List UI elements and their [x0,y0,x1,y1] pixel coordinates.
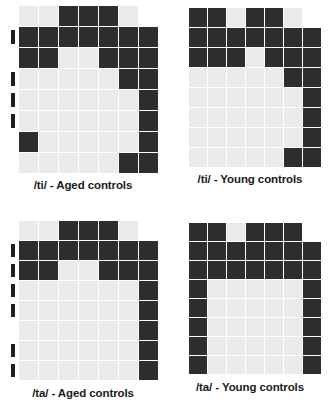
heatmap-cell [79,341,98,360]
heatmap-cell [139,341,158,360]
heatmap-cell [189,242,207,260]
heatmap-cell [227,356,245,374]
row-marker [9,111,18,131]
heatmap-cell [59,111,78,131]
heatmap-cell [19,153,38,173]
row-marker [179,128,188,147]
row-marker-bar-icon [11,93,15,107]
heatmap-cell [227,128,245,147]
heatmap-cell [99,341,118,360]
heatmap-cell [119,221,138,240]
heatmap-cell [284,28,302,47]
heatmap-cell [189,28,207,47]
row-marker-bar-icon [182,283,186,296]
heatmap-cell [246,48,264,67]
heatmap-cell [99,90,118,110]
heatmap-cell [265,68,283,87]
heatmap-cell [59,69,78,89]
heatmap-cell [119,90,138,110]
heatmap-cell [39,241,58,260]
heatmap-cell [99,361,118,380]
heatmap-cell [79,111,98,131]
heatmap-cell [119,281,138,300]
heatmap-cell [227,318,245,336]
heatmap-cell [19,321,38,340]
row-marker [9,341,18,360]
heatmap-cell [39,221,58,240]
heatmap-cell [79,90,98,110]
row-marker-bar-icon [182,302,186,315]
heatmap-cell [227,68,245,87]
heatmap-cell [139,69,158,89]
heatmap-cell [189,68,207,87]
heatmap-cell [139,27,158,47]
heatmap-cell [208,148,226,167]
heatmap-cell [284,48,302,67]
heatmap-cell [99,69,118,89]
heatmap-cell [189,148,207,167]
heatmap-cell [79,27,98,47]
row-marker [179,8,188,27]
heatmap-cell [246,261,264,279]
row-marker [179,280,188,298]
heatmap-cell [284,337,302,355]
row-marker-bar-icon [11,135,15,149]
row-marker [9,90,18,110]
heatmap-cell [79,48,98,68]
heatmap-cell [19,281,38,300]
heatmap-cell [189,8,207,27]
heatmap-cell [265,318,283,336]
heatmap-cell [119,27,138,47]
heatmap-cell [284,280,302,298]
row-marker-bar-icon [182,151,186,164]
heatmap-cell [208,261,226,279]
heatmap-cell [39,301,58,320]
panel-ti-young: /ti/ - Young controls [167,0,333,207]
heatmap-cell [139,111,158,131]
heatmap-cell [139,361,158,380]
heatmap-cell [189,108,207,127]
panel-caption-ta-aged: /ta/ - Aged controls [32,387,134,399]
heatmap-cell [265,48,283,67]
heatmap-cell [119,69,138,89]
row-marker [9,69,18,89]
heatmap-cell [39,6,58,26]
heatmap-cell [39,90,58,110]
heatmap-cell [39,321,58,340]
row-marker [179,299,188,317]
row-marker-bar-icon [11,324,15,337]
heatmap-cell [119,341,138,360]
heatmap-cell [208,242,226,260]
heatmap-cell [303,108,321,127]
heatmap-cell [99,241,118,260]
heatmap-cell [227,48,245,67]
heatmap-cell [39,153,58,173]
heatmap-cell [59,27,78,47]
heatmap-cell [227,28,245,47]
heatmap-cell [99,261,118,280]
panel-ta-young: /ta/ - Young controls [167,207,333,414]
heatmap-cell [139,6,158,26]
heatmap-cell [79,221,98,240]
heatmap-cell [79,6,98,26]
row-marker-bar-icon [182,71,186,84]
heatmap-cell [139,48,158,68]
heatmap-grid-ta-young [179,223,321,374]
heatmap-cell [39,361,58,380]
heatmap-cell [19,221,38,240]
heatmap-cell [208,318,226,336]
row-marker-bar-icon [182,31,186,44]
heatmap-cell [139,153,158,173]
row-marker-bar-icon [11,72,15,86]
heatmap-cell [139,261,158,280]
heatmap-cell [227,88,245,107]
heatmap-cell [246,242,264,260]
panel-caption-ti-young: /ti/ - Young controls [198,173,303,185]
row-marker [179,261,188,279]
heatmap-cell [208,28,226,47]
panel-ta-aged: /ta/ - Aged controls [0,207,167,414]
row-marker [179,242,188,260]
row-marker-bar-icon [11,344,15,357]
heatmap-cell [59,221,78,240]
heatmap-cell [39,341,58,360]
